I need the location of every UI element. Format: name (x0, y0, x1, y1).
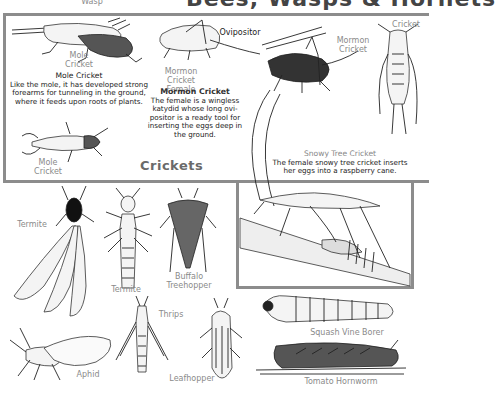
label-buffalo-treehopper: Buffalo Treehopper (164, 272, 214, 290)
label-ovipositor: Ovipositor (216, 28, 264, 37)
label-termite-winged: Termite (12, 220, 52, 229)
label-leafhopper: Leafhopper (168, 374, 216, 383)
label-mole-cricket-top: Mole Cricket (62, 51, 96, 69)
snowy-tree-cricket-body: The female snowy tree cricket inserts he… (270, 159, 410, 176)
cricket-top-view-illustration (372, 24, 424, 134)
label-cricket: Cricket (388, 20, 424, 29)
mormon-cricket-female-illustration (150, 20, 260, 60)
buffalo-treehopper-illustration (160, 188, 216, 283)
mole-cricket-caption-body: Like the mole, it has developed strong f… (8, 81, 150, 107)
mole-cricket-caption: Mole Cricket Like the mole, it has devel… (8, 72, 150, 106)
snowy-tree-cricket-illustration (240, 178, 410, 286)
squash-vine-borer-illustration (258, 292, 398, 326)
label-termite-worker: Termite (106, 285, 146, 294)
wasp-label: Wasp (72, 0, 112, 6)
label-thrips: Thrips (156, 310, 186, 319)
page-title: Bees, Wasps & Hornets (186, 0, 496, 11)
snowy-tree-cricket-caption: Snowy Tree Cricket The female snowy tree… (270, 150, 410, 176)
label-squash-vine-borer: Squash Vine Borer (302, 328, 392, 337)
label-mormon-cricket: Mormon Cricket (336, 36, 370, 54)
label-tomato-hornworm: Tomato Hornworm (296, 377, 386, 386)
thrips-illustration (112, 296, 172, 380)
label-aphid: Aphid (72, 370, 104, 379)
frame-corner-right (411, 180, 429, 183)
crickets-section-title: Crickets (140, 158, 203, 173)
termite-winged-illustration (4, 186, 104, 316)
label-mole-cricket-bottom: Mole Cricket (32, 158, 64, 176)
